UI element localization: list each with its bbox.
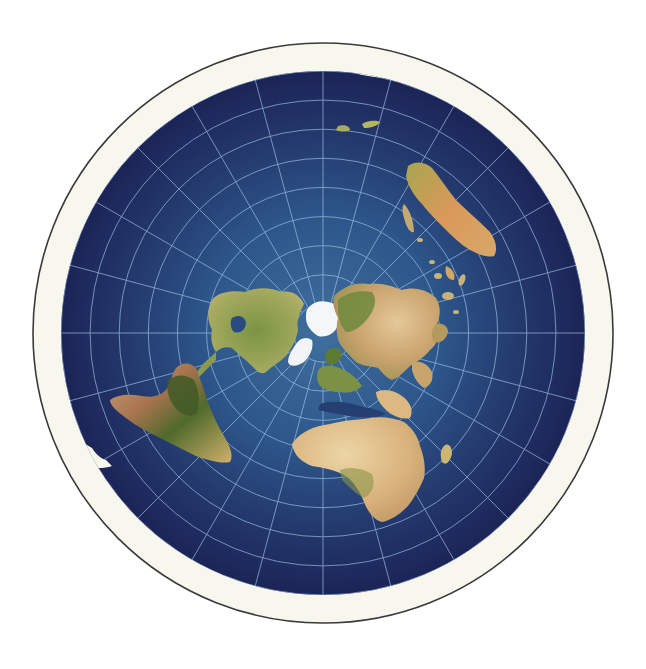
map-canvas bbox=[0, 0, 646, 669]
flat-earth-map bbox=[0, 0, 646, 669]
